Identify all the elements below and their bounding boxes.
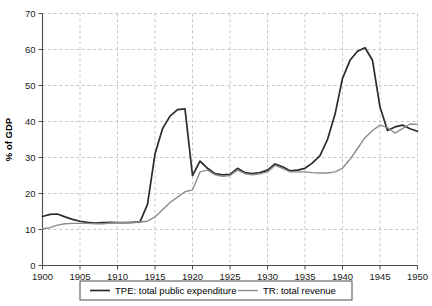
gridlines	[43, 14, 418, 266]
y-tick-label: 10	[25, 224, 36, 235]
axes	[39, 14, 418, 270]
x-tick-label: 1905	[69, 271, 90, 282]
legend-label-tpe: TPE: total public expenditure	[115, 285, 236, 296]
series-line-tpe	[43, 48, 418, 223]
legend-label-tr: TR: total revenue	[263, 285, 336, 296]
chart-container: 0102030405060701900190519101915192019251…	[0, 0, 432, 306]
x-tick-label: 1935	[294, 271, 315, 282]
y-tick-label: 40	[25, 116, 36, 127]
y-tick-label: 70	[25, 8, 36, 19]
y-tick-label: 50	[25, 80, 36, 91]
y-tick-label: 60	[25, 44, 36, 55]
x-tick-label: 1925	[219, 271, 240, 282]
line-chart: 0102030405060701900190519101915192019251…	[0, 0, 432, 306]
y-tick-label: 20	[25, 188, 36, 199]
x-tick-label: 1940	[332, 271, 353, 282]
y-axis-title: % of GDP	[3, 117, 14, 161]
y-axis-label: % of GDP	[3, 117, 14, 161]
tick-labels: 0102030405060701900190519101915192019251…	[25, 8, 428, 282]
y-tick-label: 30	[25, 152, 36, 163]
x-tick-label: 1920	[182, 271, 203, 282]
x-tick-label: 1950	[407, 271, 428, 282]
x-tick-label: 1900	[32, 271, 53, 282]
x-tick-label: 1915	[144, 271, 165, 282]
x-tick-label: 1910	[107, 271, 128, 282]
x-tick-label: 1945	[369, 271, 390, 282]
y-tick-label: 0	[30, 260, 35, 271]
x-tick-label: 1930	[257, 271, 278, 282]
chart-legend: TPE: total public expenditureTR: total r…	[80, 281, 352, 300]
